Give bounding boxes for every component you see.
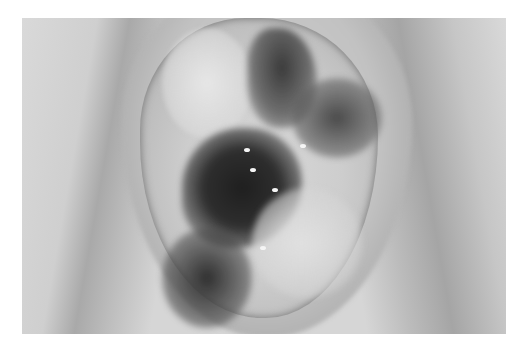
clinical-photo (22, 18, 506, 334)
dark-tissue-area (162, 228, 252, 328)
highlight (272, 188, 278, 192)
highlight (260, 246, 266, 250)
highlight (250, 168, 256, 172)
light-tissue-area (252, 188, 362, 298)
highlight (300, 144, 306, 148)
light-tissue-area (162, 28, 252, 138)
highlight (244, 148, 250, 152)
